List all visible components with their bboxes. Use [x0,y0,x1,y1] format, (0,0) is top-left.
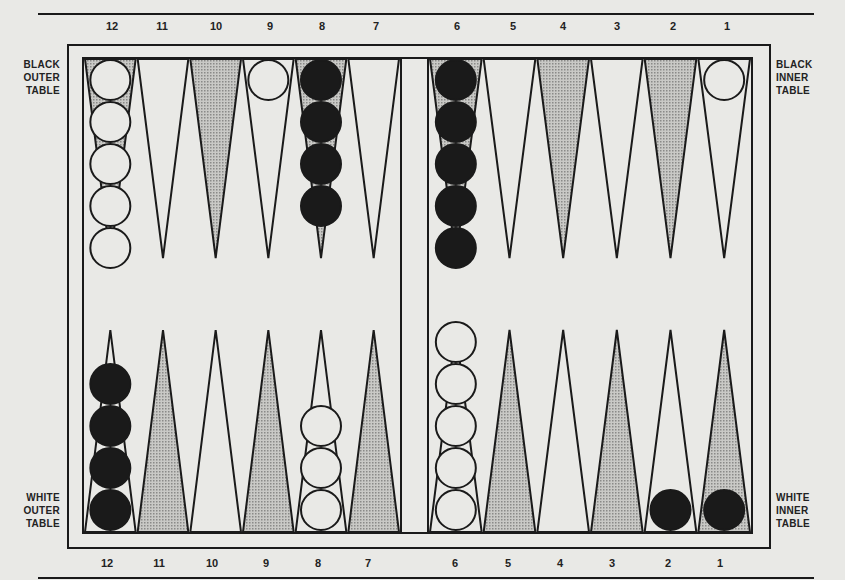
point-top-7[interactable] [348,59,399,258]
white-checker[interactable] [90,60,130,100]
white-checker[interactable] [90,144,130,184]
white-checker[interactable] [704,60,744,100]
black-checker[interactable] [436,60,476,100]
black-checker[interactable] [436,102,476,142]
black-checker[interactable] [436,144,476,184]
points-layer [85,59,750,532]
black-checker[interactable] [301,144,341,184]
point-top-4[interactable] [537,59,589,258]
backgammon-board [0,0,845,580]
black-checker[interactable] [90,364,130,404]
white-checker[interactable] [436,448,476,488]
point-bottom-4[interactable] [537,330,589,532]
point-bottom-3[interactable] [591,330,643,532]
white-checker[interactable] [301,490,341,530]
point-bottom-11[interactable] [138,330,189,532]
white-checker[interactable] [436,322,476,362]
white-checker[interactable] [248,60,288,100]
point-top-3[interactable] [591,59,643,258]
black-checker[interactable] [301,60,341,100]
point-top-11[interactable] [138,59,189,258]
white-checker[interactable] [436,490,476,530]
point-top-2[interactable] [645,59,697,258]
black-checker[interactable] [301,102,341,142]
white-checker[interactable] [301,406,341,446]
white-checker[interactable] [436,406,476,446]
black-checker[interactable] [651,490,691,530]
black-checker[interactable] [90,406,130,446]
point-top-5[interactable] [484,59,536,258]
white-checker[interactable] [90,228,130,268]
white-checker[interactable] [301,448,341,488]
white-checker[interactable] [90,102,130,142]
black-checker[interactable] [436,228,476,268]
point-bottom-10[interactable] [190,330,241,532]
point-bottom-5[interactable] [484,330,536,532]
black-checker[interactable] [90,490,130,530]
point-top-10[interactable] [190,59,241,258]
black-checker[interactable] [704,490,744,530]
board-playfield [83,58,752,533]
white-checker[interactable] [90,186,130,226]
black-checker[interactable] [90,448,130,488]
black-checker[interactable] [436,186,476,226]
point-bottom-9[interactable] [243,330,294,532]
white-checker[interactable] [436,364,476,404]
black-checker[interactable] [301,186,341,226]
point-bottom-7[interactable] [348,330,399,532]
checkers-layer [90,60,744,530]
